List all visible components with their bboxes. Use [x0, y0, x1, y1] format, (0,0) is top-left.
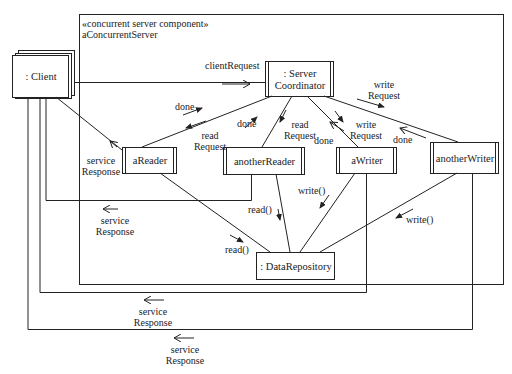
areader-object[interactable]: aReader	[123, 148, 177, 174]
msg-done-anotherwriter: done	[393, 134, 412, 145]
client-label: : Client	[25, 71, 56, 83]
awriter-object[interactable]: aWriter	[337, 148, 397, 174]
msg-service-response-anotherwriter: service Response	[164, 344, 206, 366]
component-name: aConcurrentServer	[82, 29, 158, 40]
anotherreader-label: anotherReader	[234, 156, 295, 168]
datarepository-object[interactable]: : DataRepository	[257, 253, 335, 280]
datarepository-label: : DataRepository	[260, 261, 331, 273]
server-coordinator-object[interactable]: : Server Coordinator	[266, 62, 334, 97]
server-coordinator-label-1: : Server	[284, 68, 317, 80]
diagram-canvas	[0, 0, 512, 374]
msg-read-anotherreader: read()	[248, 204, 272, 215]
anotherwriter-object[interactable]: anotherWriter	[431, 143, 499, 174]
msg-service-response-areader: service Response	[80, 155, 122, 177]
msg-done-areader: done	[175, 101, 194, 112]
anotherwriter-label: anotherWriter	[436, 153, 494, 165]
msg-client-request: clientRequest	[205, 60, 259, 71]
msg-write-awriter: write()	[298, 185, 325, 196]
anotherreader-object[interactable]: anotherReader	[224, 148, 305, 175]
msg-read-request-areader: read Request	[190, 130, 230, 152]
msg-write-request-awriter: write Request	[346, 119, 386, 141]
msg-done-awriter: done	[314, 135, 333, 146]
msg-read-areader: read()	[225, 244, 249, 255]
server-coordinator-label-2: Coordinator	[275, 80, 326, 92]
component-stereotype: «concurrent server component»	[82, 18, 209, 29]
areader-label: aReader	[133, 155, 167, 167]
msg-write-anotherwriter: write()	[406, 214, 433, 225]
msg-service-response-awriter: service Response	[132, 306, 174, 328]
msg-done-anotherreader: done	[237, 118, 256, 129]
msg-write-request-anotherwriter: write Request	[364, 79, 404, 101]
msg-service-response-anotherreader: service Response	[94, 215, 136, 237]
client-object[interactable]: : Client	[13, 56, 69, 98]
awriter-label: aWriter	[351, 155, 383, 167]
